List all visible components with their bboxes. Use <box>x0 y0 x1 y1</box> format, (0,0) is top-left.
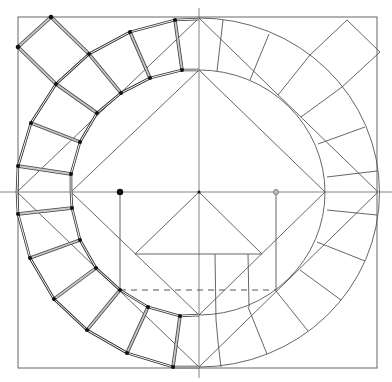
right-radial-segments <box>215 20 380 367</box>
geometric-construction-drawing <box>0 0 392 382</box>
central-triangle <box>135 192 262 254</box>
open-marker-dot <box>273 189 278 194</box>
filled-marker-dot <box>117 189 123 195</box>
pentagon-right-vertical <box>248 254 249 307</box>
diagram-canvas <box>0 0 392 382</box>
outer-arc-right <box>199 18 380 367</box>
inner-arc-right <box>199 70 325 315</box>
